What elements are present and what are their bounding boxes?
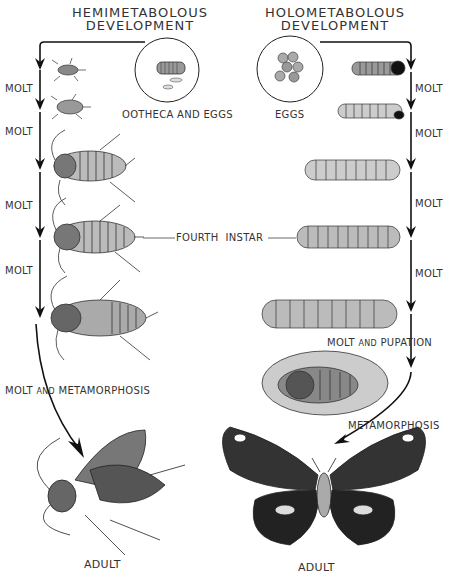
- nymph-fourth-instar: [53, 198, 144, 273]
- right-molt-label-3: MOLT: [415, 198, 443, 209]
- moth-eggs-illustration: [257, 36, 323, 102]
- holometabolous-title-line2: DEVELOPMENT: [255, 19, 415, 32]
- cockroach-adult-label: ADULT: [84, 558, 121, 571]
- hemimetabolous-title-line2: DEVELOPMENT: [40, 19, 240, 32]
- label-part: AND: [359, 339, 378, 348]
- fourth-instar-label: FOURTH INSTAR: [176, 232, 263, 243]
- ootheca-and-eggs-illustration: [135, 38, 199, 102]
- larva-fifth-instar: [262, 300, 397, 328]
- hemimetabolous-arrowheads: [35, 58, 84, 458]
- larva-first-instar: [352, 61, 405, 75]
- nymph-second-instar: [51, 94, 91, 119]
- molt-and-pupation-label: MOLT AND PUPATION: [327, 337, 432, 348]
- label-part: MOLT: [5, 385, 33, 396]
- left-molt-label-4: MOLT: [5, 265, 33, 276]
- instar-label: INSTAR: [226, 232, 264, 243]
- right-molt-label-4: MOLT: [415, 268, 443, 279]
- larva-second-instar: [338, 104, 404, 119]
- adult-cockroach-illustration: [37, 430, 185, 555]
- eggs-label: EGGS: [275, 109, 304, 120]
- ootheca-eggs-label: OOTHECA AND EGGS: [122, 109, 233, 120]
- larva-fourth-instar: [297, 226, 400, 248]
- holometabolous-title: HOLOMETABOLOUS DEVELOPMENT: [255, 6, 415, 32]
- right-molt-label-2: MOLT: [415, 128, 443, 139]
- label-part: METAMORPHOSIS: [59, 385, 151, 396]
- molt-and-metamorphosis-label: MOLT AND METAMORPHOSIS: [5, 385, 150, 396]
- label-part: PUPATION: [381, 337, 433, 348]
- diagram-canvas: [0, 0, 449, 578]
- nymph-first-instar: [52, 58, 86, 81]
- moth-adult-label: ADULT: [298, 561, 335, 574]
- right-molt-label-1: MOLT: [415, 83, 443, 94]
- metamorphosis-label: METAMORPHOSIS: [348, 420, 440, 431]
- label-part: MOLT: [327, 337, 355, 348]
- nymph-fifth-instar: [51, 276, 158, 360]
- nymph-third-instar: [52, 130, 135, 205]
- left-molt-label-1: MOLT: [5, 83, 33, 94]
- hemimetabolous-title: HEMIMETABOLOUS DEVELOPMENT: [40, 6, 240, 32]
- pupa-cocoon-illustration: [262, 351, 388, 415]
- left-molt-label-2: MOLT: [5, 126, 33, 137]
- label-part: AND: [37, 387, 56, 396]
- larva-third-instar: [305, 160, 400, 180]
- adult-moth-illustration: [223, 427, 426, 545]
- left-molt-label-3: MOLT: [5, 200, 33, 211]
- fourth-label: FOURTH: [176, 232, 219, 243]
